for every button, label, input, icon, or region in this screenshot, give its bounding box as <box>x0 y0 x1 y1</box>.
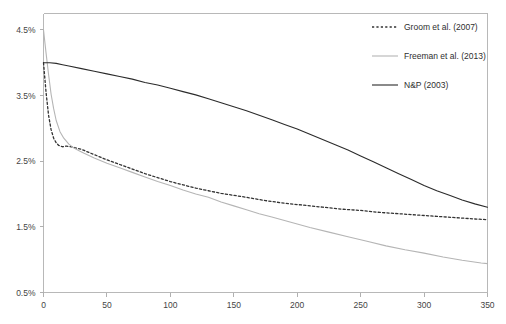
legend-label: Groom et al. (2007) <box>404 22 478 32</box>
x-tick-label: 200 <box>290 300 304 310</box>
y-tick-label: 1.5% <box>16 222 36 232</box>
chart-container: 0.5%1.5%2.5%3.5%4.5% 0501001502002503003… <box>0 0 506 324</box>
x-tick-label: 100 <box>163 300 177 310</box>
y-tick-label: 4.5% <box>16 25 36 35</box>
legend-label: N&P (2003) <box>404 80 448 90</box>
y-tick-label: 2.5% <box>16 156 36 166</box>
line-chart: 0.5%1.5%2.5%3.5%4.5% 0501001502002503003… <box>0 0 506 324</box>
x-tick-label: 150 <box>227 300 241 310</box>
x-tick-label: 50 <box>102 300 112 310</box>
x-tick-label: 250 <box>354 300 368 310</box>
x-tick-label: 0 <box>41 300 46 310</box>
x-tick-label: 350 <box>480 300 494 310</box>
y-tick-label: 3.5% <box>16 91 36 101</box>
legend-label: Freeman et al. (2013) <box>404 51 486 61</box>
x-tick-label: 300 <box>417 300 431 310</box>
chart-background <box>0 0 506 324</box>
y-tick-label: 0.5% <box>16 288 36 298</box>
